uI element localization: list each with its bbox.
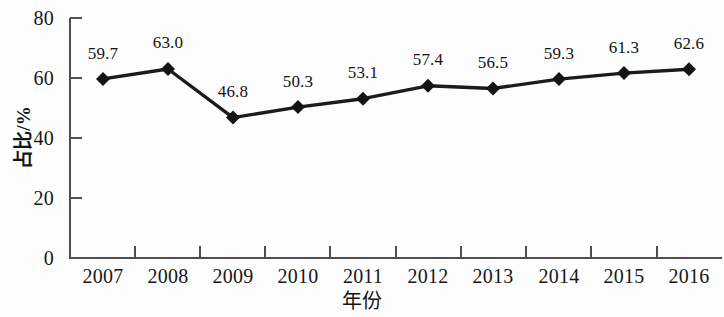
x-tick-label-2009: 2009 bbox=[198, 266, 268, 286]
data-label-2008: 63.0 bbox=[138, 34, 198, 51]
data-label-2011: 53.1 bbox=[333, 64, 393, 81]
y-tick-label-60: 60 bbox=[8, 68, 54, 88]
data-label-2014: 59.3 bbox=[529, 45, 589, 62]
x-tick-label-2010: 2010 bbox=[263, 266, 333, 286]
data-label-2012: 57.4 bbox=[398, 51, 458, 68]
x-tick-label-2015: 2015 bbox=[589, 266, 659, 286]
x-tick-label-2013: 2013 bbox=[458, 266, 528, 286]
y-tick-label-80: 80 bbox=[8, 8, 54, 28]
y-axis-title: 占比/% bbox=[14, 92, 33, 184]
data-label-2015: 61.3 bbox=[594, 39, 654, 56]
x-tick-label-2014: 2014 bbox=[524, 266, 594, 286]
data-label-2010: 50.3 bbox=[268, 73, 328, 90]
x-tick-label-2008: 2008 bbox=[133, 266, 203, 286]
data-label-2009: 46.8 bbox=[203, 83, 263, 100]
x-tick-label-2007: 2007 bbox=[68, 266, 138, 286]
data-label-2007: 59.7 bbox=[73, 45, 133, 62]
chart-figure: 80 60 40 20 0 占比/% 2007 2008 2009 2010 2… bbox=[0, 0, 724, 317]
data-label-2016: 62.6 bbox=[659, 35, 719, 52]
x-tick-label-2012: 2012 bbox=[393, 266, 463, 286]
x-axis-ticks bbox=[135, 246, 657, 258]
x-tick-label-2011: 2011 bbox=[328, 266, 398, 286]
x-tick-label-2016: 2016 bbox=[654, 266, 724, 286]
y-tick-label-0: 0 bbox=[8, 248, 54, 268]
x-axis-title: 年份 bbox=[312, 291, 412, 311]
data-label-2013: 56.5 bbox=[463, 54, 523, 71]
data-series-line bbox=[103, 69, 689, 118]
y-tick-label-20: 20 bbox=[8, 188, 54, 208]
